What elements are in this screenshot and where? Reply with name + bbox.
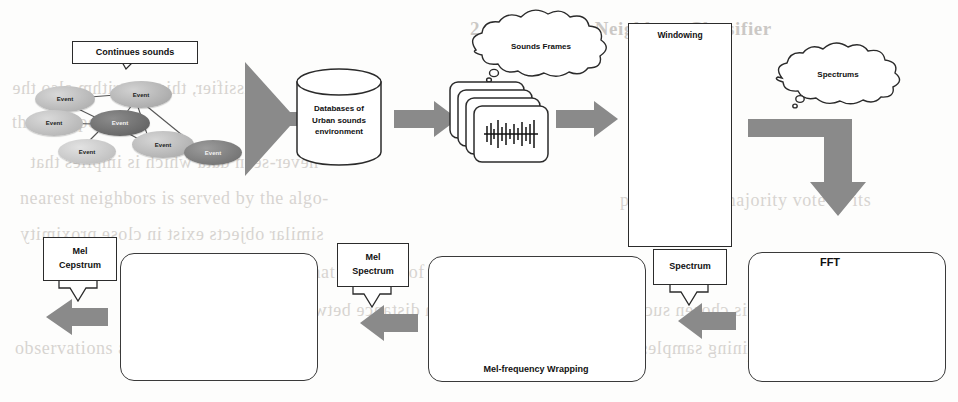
mel-cepstrum-callout-line1: Mel [72,245,87,259]
event-node: Event [58,139,116,164]
event-node: Event [25,110,83,136]
fft-title: FFT [800,256,860,268]
event-node: Event [184,140,242,165]
event-node-label: Event [79,149,95,155]
mel-frequency-wrapping-title: Mel-frequency Wrapping [428,364,644,374]
database-label-line3: environment [299,126,379,138]
event-node: Event [110,81,172,108]
event-node: Event [90,110,150,136]
spectrum-callout-label: Spectrum [669,260,711,274]
mel-spectrum-callout-line1: Mel [365,251,380,265]
mel-cepstrum-callout: Mel Cepstrum [43,237,117,281]
mel-spectrum-callout-line2: Spectrum [352,265,394,279]
database-label: Databases of Urban sounds environment [299,103,379,138]
event-node: Event [35,86,95,112]
continues-sounds-label: Continues sounds [96,46,175,60]
event-node-label: Event [205,150,221,156]
mel-spectrum-callout: Mel Spectrum [337,243,409,287]
mel-cepstrum-callout-line2: Cepstrum [59,259,101,273]
event-node-label: Event [46,120,62,126]
mfcc-pipeline-figure: 2.4 K-Nearest Neighbors Classifier class… [0,0,958,402]
windowing-panel: Windowing [628,23,732,247]
bleed-text-line: nearest neighbors is served by the algo- [20,188,329,209]
event-node-label: Event [112,120,128,126]
event-node-label: Event [133,92,149,98]
fft-panel [748,252,946,382]
event-node-label: Event [57,96,73,102]
spectrum-callout: Spectrum [653,249,727,285]
spectrums-cloud-label: Spectrums [790,70,886,79]
waveform-icon [484,120,538,148]
continues-sounds-callout: Continues sounds [72,41,198,64]
mel-cepstrum-plot-panel [120,253,318,381]
windowing-title: Windowing [629,30,731,40]
database-label-line2: Urban sounds [299,115,379,127]
event-node-label: Event [155,142,171,148]
sounds-frames-cloud-label: Sounds Frames [486,42,596,51]
database-label-line1: Databases of [299,103,379,115]
